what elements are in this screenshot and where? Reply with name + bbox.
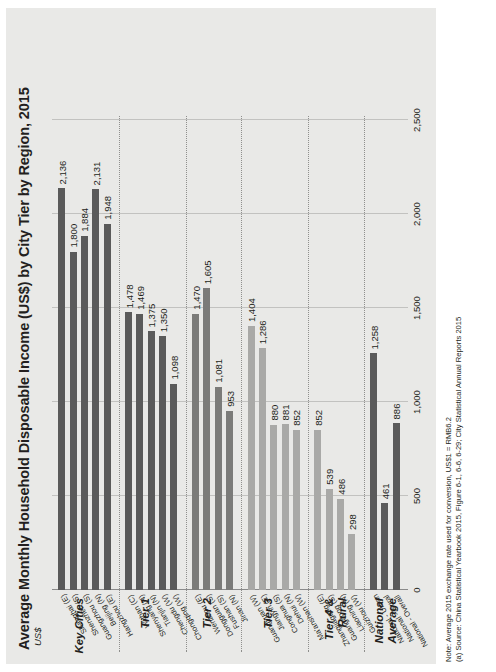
group-label: Tier 4 & Rural (323, 598, 348, 656)
bar-value-label: 1,350 (157, 308, 168, 332)
bar-row: 1,286 (259, 120, 266, 590)
bar (348, 534, 355, 590)
bar-row: 1,350 (159, 120, 166, 590)
bar-value-label: 2,131 (90, 162, 101, 186)
bar (70, 252, 77, 590)
value-axis-tick: 500 (411, 488, 422, 504)
bar-value-label: 1,081 (213, 359, 224, 383)
bar (215, 387, 222, 590)
group-label: Key Cities (73, 598, 86, 656)
group-label: Tier 2 (201, 598, 214, 656)
group-label: National Average (373, 598, 398, 656)
bar-value-label: 1,948 (102, 196, 113, 220)
group-separator (119, 116, 120, 652)
bar (203, 288, 210, 590)
bar (270, 425, 277, 590)
bar-value-label: 881 (280, 405, 291, 421)
value-axis-tick: 2,000 (411, 202, 422, 226)
bar (337, 499, 344, 590)
bar (381, 503, 388, 590)
bar (370, 354, 377, 591)
bar (81, 236, 88, 590)
bar (92, 189, 99, 590)
bar-row: 852 (314, 120, 321, 590)
bar (170, 384, 177, 590)
bar (125, 312, 132, 590)
chart-title: Average Monthly Household Disposable Inc… (16, 20, 32, 650)
bar-row: 1,098 (170, 120, 177, 590)
bar-row: 1,948 (104, 120, 111, 590)
bar (226, 411, 233, 590)
bar-row: 880 (270, 120, 277, 590)
bar-row: 1,470 (192, 120, 199, 590)
bar-value-label: 2,136 (56, 161, 67, 185)
bar-value-label: 1,286 (257, 320, 268, 344)
bar-value-label: 461 (379, 483, 390, 499)
bar-value-label: 1,375 (146, 304, 157, 328)
bar (148, 332, 155, 591)
bar (104, 224, 111, 590)
bar-value-label: 1,800 (68, 224, 79, 248)
bar (248, 326, 255, 590)
bar-row: 486 (337, 120, 344, 590)
group-separator (364, 116, 365, 652)
bar-row: 1,258 (370, 120, 377, 590)
bar-value-label: 1,098 (168, 356, 179, 380)
bar-row: 1,605 (203, 120, 210, 590)
bar-value-label: 1,469 (134, 286, 145, 310)
value-axis-tick: 2,500 (411, 108, 422, 132)
bar-row: 1,375 (148, 120, 155, 590)
bar-row: 1,404 (248, 120, 255, 590)
bar-row: 2,136 (58, 120, 65, 590)
bar-value-label: 1,884 (79, 208, 90, 232)
bar-row: 852 (293, 120, 300, 590)
bar-value-label: 852 (312, 410, 323, 426)
bar (159, 336, 166, 590)
value-axis-label: US$ (32, 628, 43, 646)
value-axis-tick: 0 (411, 587, 422, 592)
bar-row: 953 (226, 120, 233, 590)
note-line-2: (a) Source: China Statistical Yearbook 2… (454, 12, 464, 662)
bar-value-label: 886 (391, 404, 402, 420)
note-line-1: Note: Average 2015 exchange rate used fo… (444, 12, 454, 662)
bar-value-label: 852 (291, 410, 302, 426)
bar-value-label: 1,404 (246, 298, 257, 322)
bar-value-label: 539 (324, 469, 335, 485)
bar-row: 461 (381, 120, 388, 590)
bar (293, 430, 300, 590)
bar (192, 314, 199, 590)
value-axis-tick: 1,000 (411, 390, 422, 414)
bar-row: 298 (348, 120, 355, 590)
group-label: Tier 1 (139, 598, 152, 656)
bar-value-label: 1,605 (201, 260, 212, 284)
group-label: Tier 3 (262, 598, 275, 656)
bar (58, 188, 65, 590)
bar-value-label: 1,258 (368, 326, 379, 350)
value-axis-tick: 1,500 (411, 296, 422, 320)
bar-row: 1,081 (215, 120, 222, 590)
bar-row: 1,884 (81, 120, 88, 590)
plot-area: Shanghai (E)Shenzhen (S)Guangzhou (S)Bei… (52, 120, 408, 590)
bar-row: 886 (393, 120, 400, 590)
chart-panel: Average Monthly Household Disposable Inc… (6, 8, 436, 664)
bar (282, 424, 289, 590)
bar-row: 539 (326, 120, 333, 590)
bar-value-label: 953 (224, 391, 235, 407)
group-separator (308, 116, 309, 652)
bar (326, 489, 333, 590)
bar (136, 314, 143, 590)
bar-row: 2,131 (92, 120, 99, 590)
group-separator (241, 116, 242, 652)
bar-value-label: 1,478 (123, 284, 134, 308)
chart-notes: Note: Average 2015 exchange rate used fo… (444, 12, 464, 662)
bar-row: 881 (282, 120, 289, 590)
bar-row: 1,800 (70, 120, 77, 590)
bar-value-label: 880 (268, 405, 279, 421)
bar (314, 430, 321, 590)
group-separator (186, 116, 187, 652)
bar-row: 1,478 (125, 120, 132, 590)
chart-page: Average Monthly Household Disposable Inc… (0, 0, 496, 672)
bar-value-label: 298 (346, 514, 357, 530)
bar-value-label: 486 (335, 479, 346, 495)
bar (259, 348, 266, 590)
